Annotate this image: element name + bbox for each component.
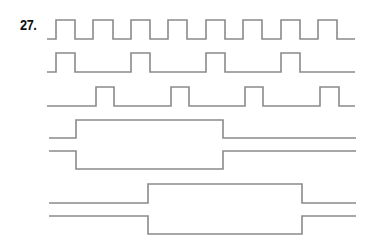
timing-diagram [0,0,375,235]
bus-1-upper-line [49,120,356,138]
clock-waveform [47,20,355,39]
bus-2-upper-line [49,184,356,203]
bus-1-lower-line [49,151,356,169]
divide-by-2-waveform [47,53,355,72]
bus-2-lower-line [49,216,356,234]
divide-by-2-delayed-waveform [47,87,355,106]
